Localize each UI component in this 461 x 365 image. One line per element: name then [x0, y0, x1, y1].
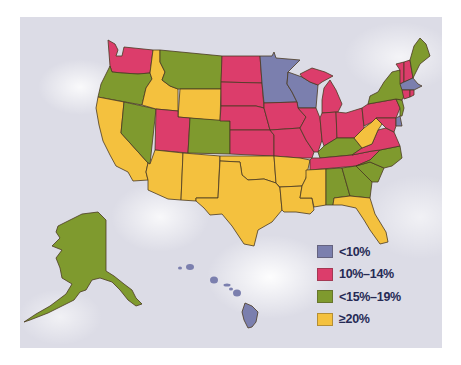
state-DE: [396, 116, 402, 126]
legend-label-gte20: ≥20%: [339, 312, 370, 326]
legend-swatch-lt10: [317, 245, 333, 258]
state-RI: [410, 90, 414, 97]
state-HI: [178, 264, 258, 328]
legend-swatch-15to19: [317, 290, 333, 303]
state-KS: [230, 130, 274, 156]
state-SD: [221, 82, 264, 108]
state-AZ: [146, 150, 183, 200]
state-FL: [333, 196, 388, 244]
state-WA: [108, 40, 153, 74]
legend-label-lt10: <10%: [339, 245, 370, 259]
state-WY: [178, 89, 221, 121]
legend-label-10to14: 10%–14%: [339, 267, 394, 281]
legend-item-lt10: <10%: [317, 245, 401, 258]
legend-item-15to19: <15%–19%: [317, 290, 401, 303]
legend-item-10to14: 10%–14%: [317, 268, 401, 281]
legend-label-15to19: <15%–19%: [339, 290, 401, 304]
state-AK: [24, 212, 142, 322]
state-ND: [221, 56, 262, 83]
legend-item-gte20: ≥20%: [317, 313, 401, 326]
state-NY: [368, 70, 404, 104]
state-ME: [410, 38, 430, 78]
state-CO: [188, 118, 230, 154]
state-MT: [160, 50, 222, 89]
state-NM: [181, 153, 220, 201]
legend-swatch-gte20: [317, 313, 333, 326]
legend-swatch-10to14: [317, 268, 333, 281]
legend: <10% 10%–14% <15%–19% ≥20%: [317, 245, 401, 335]
